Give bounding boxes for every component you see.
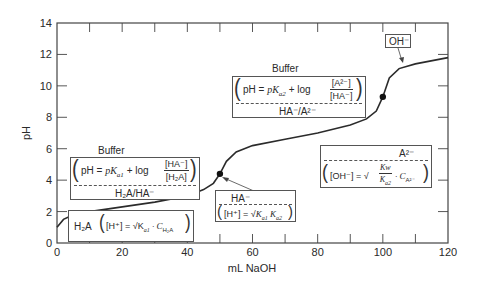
buffer2-pair: HA⁻/A²⁻: [279, 106, 316, 117]
x-tick-label: 0: [54, 246, 60, 258]
initial-box: H₂A ( [H⁺] = √Ka1 · CH₂A ): [68, 210, 194, 242]
first-eq-dashed-divider: [219, 204, 292, 205]
y-tick-label: 14: [40, 17, 52, 29]
y-tick-label: 8: [46, 111, 52, 123]
initial-species: H₂A: [74, 221, 92, 232]
buffer2-title: Buffer: [272, 64, 299, 74]
y-tick-label: 10: [40, 80, 52, 92]
x-tick-label: 20: [116, 246, 128, 258]
x-tick-label: 100: [374, 246, 392, 258]
y-tick-label: 2: [46, 206, 52, 218]
y-tick-label: 6: [46, 143, 52, 155]
initial-equation: [H⁺] = √Ka1 · CH₂A: [106, 221, 173, 233]
second-eq-species: A²⁻: [399, 148, 414, 159]
y-tick-label: 12: [40, 48, 52, 60]
arrowhead-first-eq: [222, 177, 229, 182]
first-eq-equation: [H⁺] = √Ka1 Ka2: [224, 209, 282, 221]
equivalence-point: [380, 94, 386, 100]
excess-oh-label: OH⁻: [389, 36, 409, 47]
second-eq-right-paren: ): [423, 160, 429, 184]
second-eq-equation: [OH⁻] = √: [330, 171, 369, 181]
x-tick-label: 80: [312, 246, 324, 258]
x-tick-label: 120: [439, 246, 457, 258]
y-tick-label: 0: [46, 237, 52, 249]
buffer2-right-paren: ): [356, 75, 363, 101]
buffer1-fraction: [HA⁻] [H₂A]: [164, 159, 189, 182]
second-eq-tail: · CA²⁻: [395, 171, 415, 183]
x-tick-label: 40: [181, 246, 193, 258]
y-axis-label: pH: [20, 126, 32, 140]
first-eq-left-paren: (: [217, 201, 222, 221]
initial-right-paren: ): [185, 212, 191, 235]
buffer1-title: Buffer: [98, 146, 125, 156]
buffer1-left-paren: (: [72, 156, 79, 182]
buffer2-equation: pH = pKa2 + log: [243, 84, 311, 98]
first-eq-box: HA⁻ ( [H⁺] = √Ka1 Ka2 ): [215, 190, 296, 222]
buffer2-fraction: [A²⁻] [HA⁻]: [330, 78, 353, 101]
arrowhead-oh: [399, 57, 404, 63]
y-tick-label: 4: [46, 174, 52, 186]
buffer2-dashed-divider: [236, 103, 362, 104]
first-eq-species: HA⁻: [231, 193, 250, 204]
excess-oh-box: OH⁻: [385, 34, 411, 48]
buffer2-box: ( pH = pKa2 + log [A²⁻] [HA⁻] ) HA⁻/A²⁻: [232, 76, 366, 118]
buffer1-dashed-divider: [74, 185, 196, 186]
equivalence-point: [217, 171, 223, 177]
buffer1-right-paren: ): [190, 156, 197, 182]
second-eq-dashed-divider: [324, 160, 428, 161]
first-eq-right-paren: ): [288, 201, 293, 221]
x-axis-label: mL NaOH: [228, 262, 277, 274]
buffer1-box: ( pH = pKa1 + log [HA⁻] [H₂A] ) H₂A/HA⁻: [70, 157, 200, 200]
buffer1-pair: H₂A/HA⁻: [115, 188, 154, 199]
second-eq-box: A²⁻ ( [OH⁻] = √ Kw Ka2 · CA²⁻ ): [320, 145, 432, 188]
buffer1-equation: pH = pKa1 + log: [81, 165, 149, 179]
buffer2-left-paren: (: [234, 75, 241, 101]
initial-left-paren: (: [99, 212, 105, 235]
x-tick-label: 60: [246, 246, 258, 258]
second-eq-left-paren: (: [322, 160, 328, 184]
second-eq-fraction: Kw Ka2: [379, 163, 392, 186]
